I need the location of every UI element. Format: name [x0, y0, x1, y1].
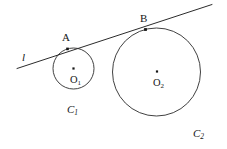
center-o2-label: O2	[153, 78, 164, 89]
point-a-label: A	[62, 32, 70, 43]
center-o2-subscript: 2	[161, 82, 165, 90]
center-o1-label: O1	[70, 75, 81, 86]
tangent-line-label: l	[22, 52, 25, 63]
geometry-figure: l A B O1 O2 C1 C2	[0, 0, 227, 149]
point-b-label: B	[140, 13, 147, 24]
point-dot-a	[66, 48, 69, 51]
center-o1-subscript: 1	[78, 79, 82, 87]
circle-c2-label: C2	[193, 128, 204, 139]
point-dot-b	[144, 28, 147, 31]
center-dot-o2	[156, 70, 158, 72]
center-dot-o1	[72, 67, 74, 69]
circle-c1-label: C1	[67, 104, 78, 115]
center-o2-letter: O	[153, 77, 161, 88]
circle-c1-subscript: 1	[74, 108, 78, 117]
circle-c2-subscript: 2	[200, 132, 204, 141]
center-o1-letter: O	[70, 74, 78, 85]
